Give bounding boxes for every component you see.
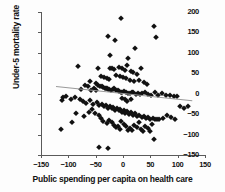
data-point	[132, 45, 137, 50]
data-point	[152, 137, 157, 142]
data-point	[70, 119, 75, 124]
x-tick-label: 150	[188, 160, 222, 169]
data-point	[82, 113, 87, 118]
y-tick-label: 100	[171, 48, 199, 57]
data-point	[152, 23, 157, 28]
data-point	[145, 81, 150, 86]
data-point	[141, 129, 146, 134]
y-tick-label: −100	[171, 130, 199, 139]
x-tick-mark	[150, 155, 151, 158]
y-tick-label: 150	[171, 27, 199, 36]
data-point	[107, 53, 112, 58]
data-point	[113, 38, 118, 43]
data-point	[59, 98, 64, 103]
data-point	[59, 126, 64, 131]
data-point	[149, 121, 154, 126]
x-tick-mark	[123, 155, 124, 158]
data-point	[147, 128, 152, 133]
data-point	[105, 33, 110, 38]
y-tick-label: 50	[171, 68, 199, 77]
x-tick-mark	[96, 155, 97, 158]
x-tick-mark	[205, 155, 206, 158]
y-tick-mark	[38, 12, 41, 13]
data-point	[130, 128, 135, 133]
x-tick-mark	[178, 155, 179, 158]
data-point	[126, 55, 131, 60]
y-tick-mark	[38, 73, 41, 74]
x-tick-mark	[68, 155, 69, 158]
y-tick-mark	[38, 94, 41, 95]
data-point	[128, 96, 133, 101]
data-point	[96, 144, 101, 149]
data-point	[117, 126, 122, 131]
data-point	[134, 72, 139, 77]
data-point	[125, 63, 130, 68]
y-axis-title: Under-5 mortality rate	[11, 0, 21, 107]
data-point	[96, 66, 101, 71]
data-point	[73, 111, 78, 116]
data-point	[64, 93, 69, 98]
x-axis-title: Public spending per capita on health car…	[0, 174, 225, 184]
y-tick-label: 200	[171, 7, 199, 16]
data-point	[118, 16, 123, 21]
data-point	[172, 117, 177, 122]
y-tick-label: −150	[171, 150, 199, 159]
data-point	[105, 146, 110, 151]
y-tick-mark	[38, 135, 41, 136]
data-point	[106, 76, 111, 81]
y-tick-mark	[38, 32, 41, 33]
y-tick-mark	[38, 114, 41, 115]
plot-area: 200150100500−50−100−150 −150−100−5005010…	[41, 12, 205, 155]
y-tick-mark	[38, 53, 41, 54]
data-point	[76, 63, 81, 68]
data-point	[153, 34, 158, 39]
scatter-chart-figure: Under-5 mortality rate Public spending p…	[0, 0, 225, 192]
data-point	[123, 67, 128, 72]
data-point	[138, 65, 143, 70]
x-tick-mark	[41, 155, 42, 158]
y-axis-line	[41, 12, 42, 155]
